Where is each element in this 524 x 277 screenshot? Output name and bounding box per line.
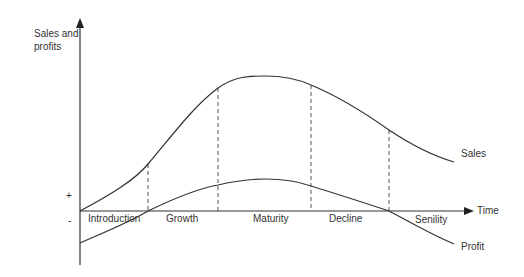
sales-curve: [80, 76, 454, 211]
y-axis-label-line2: profits: [34, 41, 61, 53]
x-axis-arrow-icon: [464, 207, 474, 215]
stage-senility: Senility: [415, 214, 447, 226]
sales-label: Sales: [461, 148, 486, 160]
stage-maturity: Maturity: [253, 213, 289, 225]
minus-sign: -: [68, 215, 71, 227]
x-axis-label: Time: [477, 205, 499, 217]
stage-dividers: [148, 85, 389, 211]
stage-introduction: Introduction: [88, 213, 140, 225]
product-life-cycle-diagram: Sales and profits + - Time Introduction …: [0, 0, 524, 277]
stage-growth: Growth: [166, 213, 198, 225]
diagram-canvas: [0, 0, 524, 277]
profit-label: Profit: [461, 241, 484, 253]
y-axis-arrow-icon: [76, 18, 84, 28]
stage-decline: Decline: [329, 213, 362, 225]
plus-sign: +: [66, 190, 72, 202]
y-axis-label-line1: Sales and: [34, 28, 78, 40]
